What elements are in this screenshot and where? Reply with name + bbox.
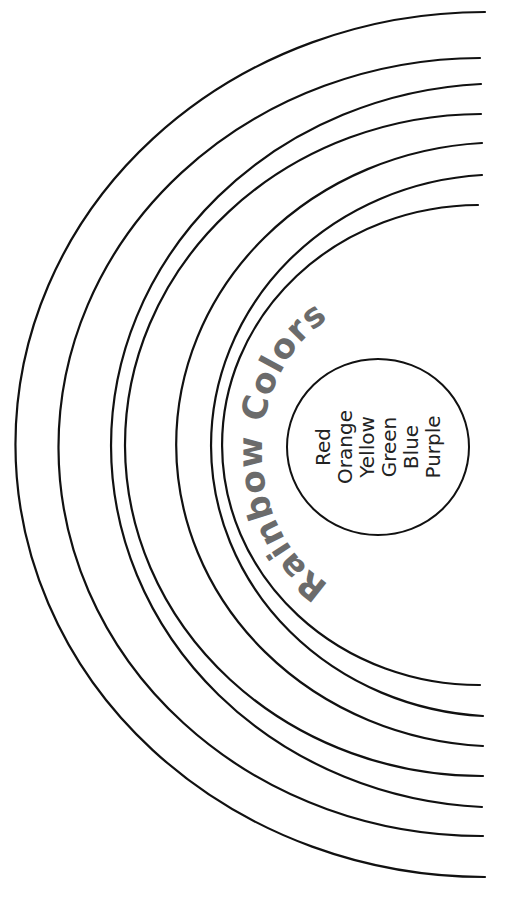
color-item-blue: Blue	[399, 425, 423, 469]
color-item-green: Green	[377, 417, 401, 478]
color-item-red: Red	[311, 428, 335, 466]
rainbow-coloring-page: Rainbow Colors Red Orange Yellow Green B…	[0, 0, 521, 904]
color-list: Red Orange Yellow Green Blue Purple	[311, 410, 445, 484]
color-item-yellow: Yellow	[355, 416, 379, 479]
color-item-purple: Purple	[421, 415, 445, 478]
color-item-orange: Orange	[333, 410, 357, 484]
